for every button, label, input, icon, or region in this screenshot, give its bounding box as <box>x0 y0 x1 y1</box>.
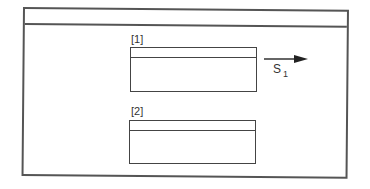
transition-label: S1 <box>273 63 288 79</box>
window-header-bar <box>25 9 347 28</box>
window-box-2 <box>129 120 256 164</box>
window-box-1 <box>130 47 257 92</box>
transition-label-main: S <box>273 62 281 76</box>
transition-label-subscript: 1 <box>283 69 288 79</box>
window-box-1-title-strip <box>131 48 256 58</box>
box-2-label: [2] <box>131 106 143 117</box>
box-1-label: [1] <box>131 34 143 45</box>
window-box-2-title-strip <box>130 121 255 131</box>
